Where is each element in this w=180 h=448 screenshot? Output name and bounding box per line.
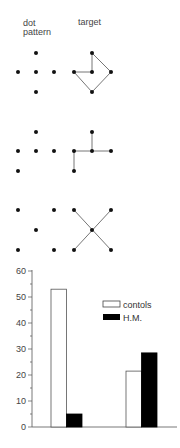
legend-label-hm: H.M. xyxy=(123,313,142,323)
legend-swatch-controls xyxy=(103,301,120,307)
y-tick-50: 50 xyxy=(16,292,26,302)
y-ticks xyxy=(28,271,32,427)
y-tick-20: 20 xyxy=(16,370,26,380)
bar-hm-1 xyxy=(67,414,83,427)
bar-hm-2 xyxy=(142,353,158,427)
y-tick-60: 60 xyxy=(16,266,26,276)
y-tick-10: 10 xyxy=(16,396,26,406)
y-tick-30: 30 xyxy=(16,344,26,354)
bar-controls-1 xyxy=(51,289,67,427)
legend-swatch-hm xyxy=(103,314,120,320)
bar-chart: 60 50 40 30 20 10 0 contols H.M. xyxy=(0,0,180,448)
bar-controls-2 xyxy=(126,371,142,427)
legend-label-controls: contols xyxy=(123,300,152,310)
y-tick-0: 0 xyxy=(21,422,26,432)
y-tick-40: 40 xyxy=(16,318,26,328)
